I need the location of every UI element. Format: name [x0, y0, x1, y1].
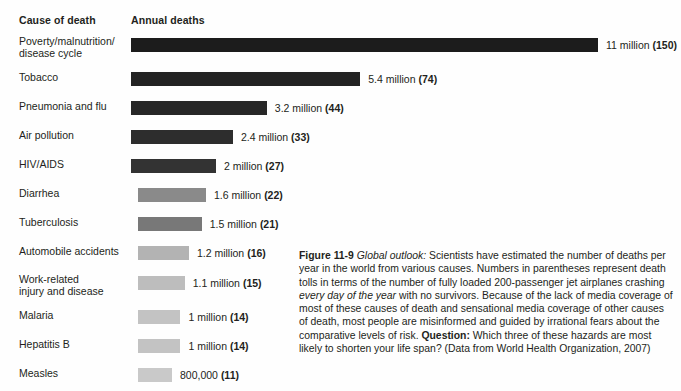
bar	[138, 246, 189, 260]
chart-row: Poverty/malnutrition/ disease cycle11 mi…	[0, 33, 681, 68]
caption-lead-italic: Global outlook:	[357, 250, 426, 261]
value-label: 1.2 million (16)	[197, 247, 266, 259]
chart-row: Air pollution2.4 million (33)	[0, 126, 681, 155]
jet-equivalent-count: (14)	[230, 311, 249, 323]
caption-question-label: Question:	[421, 330, 470, 341]
caption-italic-1: every day of the year	[299, 290, 396, 301]
jet-equivalent-count: (74)	[418, 73, 437, 85]
bar	[131, 130, 233, 144]
value-label: 3.2 million (44)	[275, 102, 344, 114]
category-label: HIV/AIDS	[19, 158, 131, 170]
jet-equivalent-count: (33)	[291, 131, 310, 143]
bar	[138, 368, 172, 382]
category-label: Tobacco	[19, 71, 131, 83]
chart-row: Tuberculosis1.5 million (21)	[0, 213, 681, 242]
jet-equivalent-count: (27)	[265, 160, 284, 172]
chart-row: HIV/AIDS2 million (27)	[0, 155, 681, 184]
value-label: 1 million (14)	[188, 311, 248, 323]
bar	[138, 339, 180, 353]
bar	[131, 159, 216, 173]
category-label: Measles	[19, 367, 131, 379]
jet-equivalent-count: (44)	[325, 102, 344, 114]
value-label: 5.4 million (74)	[368, 73, 437, 85]
jet-equivalent-count: (16)	[247, 247, 266, 259]
value-label: 2.4 million (33)	[241, 131, 310, 143]
value-label: 1.1 million (15)	[193, 277, 262, 289]
chart-row: Measles800,000 (11)	[0, 364, 681, 391]
bar	[138, 310, 180, 324]
bar	[131, 38, 598, 52]
value-label: 1 million (14)	[188, 340, 248, 352]
category-label: Air pollution	[19, 129, 131, 141]
chart-row: Tobacco5.4 million (74)	[0, 68, 681, 97]
chart-row: Pneumonia and flu3.2 million (44)	[0, 97, 681, 126]
value-label: 1.6 million (22)	[214, 189, 283, 201]
category-label: Work-related injury and disease	[19, 273, 131, 297]
column-header-annual-deaths: Annual deaths	[131, 14, 205, 26]
column-header-cause-of-death: Cause of death	[19, 14, 96, 26]
value-label: 2 million (27)	[224, 160, 284, 172]
bar	[131, 101, 267, 115]
figure-caption: Figure 11-9 Global outlook: Scientists h…	[299, 249, 675, 355]
figure-11-9: Cause of death Annual deaths Poverty/mal…	[0, 0, 681, 391]
jet-equivalent-count: (11)	[221, 369, 239, 381]
value-label: 11 million (150)	[606, 39, 677, 51]
category-label: Automobile accidents	[19, 245, 131, 257]
category-label: Pneumonia and flu	[19, 100, 131, 112]
jet-equivalent-count: (22)	[264, 189, 283, 201]
category-label: Hepatitis B	[19, 338, 131, 350]
category-label: Poverty/malnutrition/ disease cycle	[19, 35, 131, 59]
jet-equivalent-count: (150)	[653, 39, 678, 51]
category-label: Tuberculosis	[19, 216, 131, 228]
bar	[138, 188, 206, 202]
bar	[138, 276, 185, 290]
bar	[138, 217, 202, 231]
jet-equivalent-count: (14)	[230, 340, 249, 352]
jet-equivalent-count: (21)	[260, 218, 279, 230]
jet-equivalent-count: (15)	[243, 277, 262, 289]
value-label: 1.5 million (21)	[210, 218, 279, 230]
caption-figure-number: Figure 11-9	[299, 250, 354, 261]
category-label: Malaria	[19, 309, 131, 321]
bar	[131, 72, 360, 86]
chart-row: Diarrhea1.6 million (22)	[0, 184, 681, 213]
value-label: 800,000 (11)	[180, 369, 239, 381]
category-label: Diarrhea	[19, 187, 131, 199]
